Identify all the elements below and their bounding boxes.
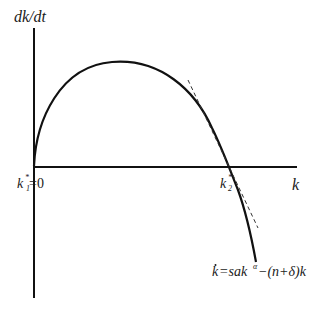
solow-phase-diagram: dk/dt k k * 1 =0 k * 2 k =sak α −(n+δ)k: [0, 0, 315, 311]
y-axis-label: dk/dt: [14, 8, 47, 25]
origin-label: k * 1 =0: [17, 173, 44, 193]
k2-label: k * 2: [220, 173, 232, 193]
svg-text:2: 2: [228, 184, 232, 193]
svg-text:=0: =0: [29, 176, 44, 191]
svg-text:k: k: [220, 176, 227, 191]
equation-label: k =sak α −(n+δ)k: [212, 262, 307, 280]
svg-text:−(n+δ)k: −(n+δ)k: [258, 264, 307, 280]
svg-text:=sak: =sak: [219, 264, 248, 279]
svg-text:*: *: [228, 173, 232, 182]
kdot-curve: [34, 62, 256, 262]
x-axis-label: k: [292, 176, 300, 193]
svg-text:k: k: [212, 264, 219, 279]
svg-text:k: k: [17, 176, 24, 191]
